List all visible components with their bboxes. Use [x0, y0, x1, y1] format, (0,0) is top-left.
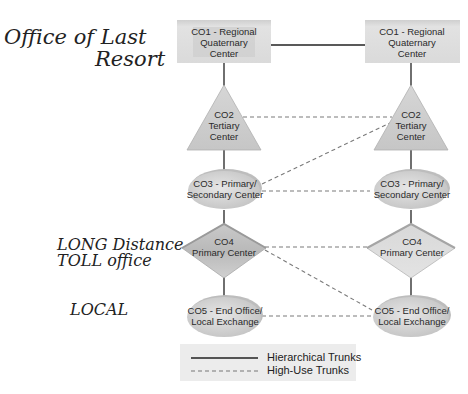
hierarchical-trunks — [224, 45, 411, 298]
co2-left-label-3: Center — [210, 131, 239, 142]
co3-right-node: CO3 - Primary/ Secondary Center — [374, 169, 451, 209]
co5-right-node: CO5 - End Office/ Local Exchange — [373, 295, 451, 337]
co1-left-node: CO1 - Regional Quaternary Center — [177, 20, 271, 63]
co2-right-label-3: Center — [397, 131, 426, 142]
legend-high-use-label: High-Use Trunks — [267, 364, 349, 376]
co3-left-label-1: CO3 - Primary/ — [193, 178, 257, 189]
legend: Hierarchical Trunks High-Use Trunks — [180, 344, 362, 381]
co4-left-label-1: CO4 — [214, 236, 234, 247]
co2-left-node: CO2 Tertiary Center — [187, 85, 261, 150]
co5-left-label-2: Local Exchange — [191, 316, 259, 327]
hierarchy-diagram: CO1 - Regional Quaternary Center CO1 - R… — [0, 0, 468, 394]
annotation-local: LOCAL — [69, 300, 128, 319]
high-use-trunks — [243, 117, 392, 316]
highuse-co3-co2 — [262, 122, 392, 184]
co4-right-node: CO4 Primary Center — [367, 224, 455, 278]
co3-left-label-2: Secondary Center — [187, 189, 264, 200]
co5-right-label-1: CO5 - End Office/ — [375, 305, 450, 316]
co1-right-label-2: Quaternary — [388, 37, 436, 48]
co3-left-node: CO3 - Primary/ Secondary Center — [187, 169, 264, 209]
co5-left-label-1: CO5 - End Office/ — [188, 305, 263, 316]
co2-right-label-2: Tertiary — [395, 120, 426, 131]
annotation-office-last-resort-1: Office of Last — [4, 25, 147, 49]
co1-right-label-3: Center — [398, 48, 427, 59]
handwritten-annotations: Office of Last Resort LONG Distance TOLL… — [4, 25, 183, 319]
annotation-office-last-resort-2: Resort — [94, 47, 166, 71]
co2-left-label-2: Tertiary — [208, 120, 239, 131]
co5-left-node: CO5 - End Office/ Local Exchange — [187, 295, 263, 337]
co3-right-label-1: CO3 - Primary/ — [380, 178, 444, 189]
co1-left-label-2: Quaternary — [200, 37, 248, 48]
co4-left-node: CO4 Primary Center — [182, 224, 266, 278]
co5-right-label-2: Local Exchange — [378, 316, 446, 327]
co2-right-label-1: CO2 — [401, 109, 421, 120]
co3-right-label-2: Secondary Center — [374, 189, 451, 200]
co1-right-node: CO1 - Regional Quaternary Center — [365, 20, 460, 63]
co4-left-label-2: Primary Center — [192, 247, 256, 258]
co4-right-label-2: Primary Center — [380, 247, 444, 258]
legend-hierarchical-label: Hierarchical Trunks — [267, 351, 362, 363]
highuse-co4-co5 — [265, 250, 372, 310]
co1-left-label-1: CO1 - Regional — [191, 26, 256, 37]
co2-left-label-1: CO2 — [214, 109, 234, 120]
co1-right-label-1: CO1 - Regional — [379, 26, 444, 37]
annotation-long-distance-2: TOLL office — [57, 251, 152, 270]
co1-left-label-3: Center — [210, 48, 239, 59]
co4-right-label-1: CO4 — [402, 236, 422, 247]
